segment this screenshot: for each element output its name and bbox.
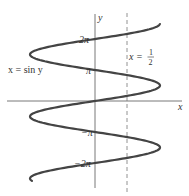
vline-label-lhs: x = [128,51,143,62]
sine-graph: x y 2π π −π −2π x = sin y x = 1 2 [0,0,189,196]
tick-label-neg-pi: −π [81,127,94,138]
x-axis-label: x [177,101,183,112]
vline-label-den: 2 [149,58,153,67]
curve-label: x = sin y [8,64,43,75]
vline-label-num: 1 [149,48,153,57]
tick-label-2pi: 2π [79,34,90,45]
tick-label-neg-2pi: −2π [74,158,92,169]
y-axis-label: y [97,12,103,23]
